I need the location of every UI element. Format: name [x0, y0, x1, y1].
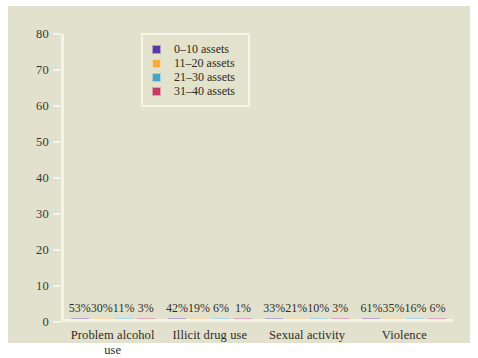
bar-wrapper: 53% — [71, 318, 89, 319]
y-axis-tick-label: 20 — [36, 243, 49, 258]
bar-value-label: 33% — [263, 301, 285, 316]
bar-wrapper: 10% — [309, 318, 327, 319]
bar-wrapper: 35% — [384, 318, 402, 319]
bars-layer: 53%30%11%3%42%19%6%1%33%21%10%3%61%35%16… — [64, 34, 453, 319]
bar-value-label: 16% — [404, 301, 426, 316]
bar[interactable]: 19% — [190, 318, 208, 319]
bar[interactable]: 6% — [212, 318, 230, 319]
chart-legend: 0–10 assets11–20 assets21–30 assets31–40… — [141, 33, 250, 107]
y-axis-tick-label: 60 — [36, 99, 49, 114]
x-axis-category-label: Sexual activity — [259, 328, 356, 358]
x-axis-category-labels: Problem alcohol useIllicit drug useSexua… — [64, 328, 453, 358]
y-axis-tick-label: 0 — [43, 315, 49, 330]
y-axis-tick-label: 10 — [36, 279, 49, 294]
y-axis-tick-mark — [53, 285, 61, 287]
bar[interactable]: 30% — [93, 318, 111, 319]
bar[interactable]: 10% — [309, 318, 327, 319]
bar-value-label: 3% — [138, 301, 154, 316]
bar-value-label: 35% — [382, 301, 404, 316]
x-axis-category-label: Violence — [356, 328, 453, 358]
y-axis-tick-mark — [53, 177, 61, 179]
bar-value-label: 3% — [332, 301, 348, 316]
bar[interactable]: 16% — [406, 318, 424, 319]
bar[interactable]: 61% — [362, 318, 380, 319]
y-axis-tick-label: 80 — [36, 27, 49, 42]
bar-value-label: 61% — [360, 301, 382, 316]
legend-item-label: 11–20 assets — [174, 56, 235, 71]
x-axis-category-label: Illicit drug use — [161, 328, 258, 358]
bar-wrapper: 61% — [362, 318, 380, 319]
bar-value-label: 1% — [235, 301, 251, 316]
legend-swatch-icon — [152, 87, 161, 96]
bar-value-label: 10% — [307, 301, 329, 316]
y-axis-tick-label: 70 — [36, 63, 49, 78]
bar-value-label: 19% — [188, 301, 210, 316]
y-axis-tick-mark — [53, 321, 61, 323]
bar-wrapper: 16% — [406, 318, 424, 319]
y-axis-tick-label: 30 — [36, 207, 49, 222]
bar[interactable]: 1% — [234, 318, 252, 319]
bar-wrapper: 3% — [331, 318, 349, 319]
plot-area: 80706050403020100 53%30%11%3%42%19%6%1%3… — [61, 34, 453, 322]
bar[interactable]: 35% — [384, 318, 402, 319]
bar-value-label: 30% — [91, 301, 113, 316]
bar-group: 33%21%10%3% — [259, 34, 356, 319]
bar[interactable]: 21% — [287, 318, 305, 319]
bar-wrapper: 1% — [234, 318, 252, 319]
chart-figure: 80706050403020100 53%30%11%3%42%19%6%1%3… — [8, 6, 470, 343]
bar-group: 61%35%16%6% — [356, 34, 453, 319]
y-axis-tick-mark — [53, 33, 61, 35]
bar[interactable]: 33% — [265, 318, 283, 319]
bar-wrapper: 19% — [190, 318, 208, 319]
legend-item[interactable]: 21–30 assets — [152, 70, 235, 84]
bar-value-label: 21% — [285, 301, 307, 316]
y-axis-tick-mark — [53, 69, 61, 71]
bar-wrapper: 11% — [115, 318, 133, 319]
bar-value-label: 53% — [69, 301, 91, 316]
y-axis-tick-mark — [53, 141, 61, 143]
legend-item[interactable]: 31–40 assets — [152, 84, 235, 98]
bar-value-label: 11% — [113, 301, 135, 316]
y-axis-tick-mark — [53, 105, 61, 107]
bar-wrapper: 21% — [287, 318, 305, 319]
bar[interactable]: 11% — [115, 318, 133, 319]
y-axis-tick-mark — [53, 213, 61, 215]
bar-wrapper: 42% — [168, 318, 186, 319]
bar[interactable]: 42% — [168, 318, 186, 319]
bar-value-label: 42% — [166, 301, 188, 316]
legend-swatch-icon — [152, 73, 161, 82]
bar-value-label: 6% — [213, 301, 229, 316]
legend-item-label: 21–30 assets — [174, 70, 235, 85]
bar[interactable]: 53% — [71, 318, 89, 319]
legend-swatch-icon — [152, 45, 161, 54]
legend-swatch-icon — [152, 59, 161, 68]
legend-item[interactable]: 0–10 assets — [152, 42, 235, 56]
legend-item-label: 0–10 assets — [174, 42, 229, 57]
bar[interactable]: 6% — [428, 318, 446, 319]
bar[interactable]: 3% — [137, 318, 155, 319]
legend-item-label: 31–40 assets — [174, 84, 235, 99]
bar-wrapper: 3% — [137, 318, 155, 319]
bar-wrapper: 30% — [93, 318, 111, 319]
bar-value-label: 6% — [429, 301, 445, 316]
x-axis-category-label: Problem alcohol use — [64, 328, 161, 358]
legend-item[interactable]: 11–20 assets — [152, 56, 235, 70]
bar[interactable]: 3% — [331, 318, 349, 319]
bar-wrapper: 6% — [212, 318, 230, 319]
y-axis-tick-mark — [53, 249, 61, 251]
y-axis-tick-label: 40 — [36, 171, 49, 186]
x-axis-line — [61, 319, 453, 322]
bar-wrapper: 6% — [428, 318, 446, 319]
bar-wrapper: 33% — [265, 318, 283, 319]
y-axis-tick-label: 50 — [36, 135, 49, 150]
